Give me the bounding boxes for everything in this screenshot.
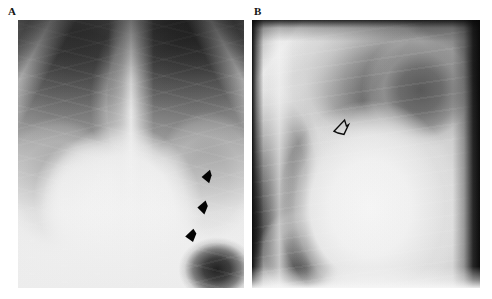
panel-a-pa-chest-radiograph: [18, 20, 244, 288]
lat-open-arrowhead-1: [332, 118, 351, 138]
panel-label-b: B: [254, 6, 261, 17]
lat-lower-margin: [252, 20, 480, 288]
pa-arrowhead-2: [196, 200, 210, 215]
panel-label-a: A: [8, 6, 16, 17]
pa-arrowhead-3: [184, 228, 199, 243]
radiograph-figure: A B: [0, 0, 492, 299]
pa-arrowhead-1: [200, 169, 214, 184]
pa-apical-shadow: [18, 20, 244, 288]
panel-b-lateral-chest-radiograph: [252, 20, 480, 288]
